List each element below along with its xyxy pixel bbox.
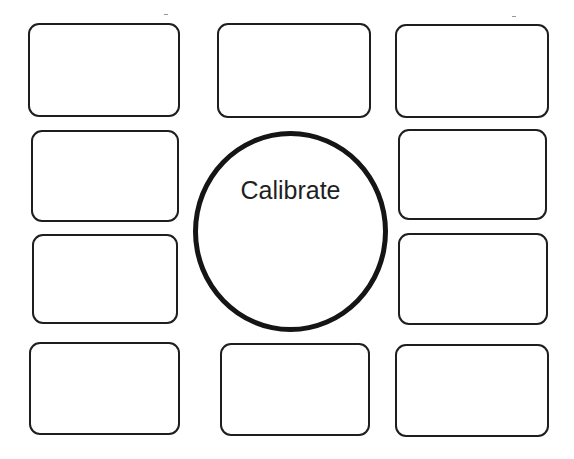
box-top-center bbox=[217, 23, 371, 118]
center-circle: Calibrate bbox=[193, 131, 388, 332]
box-bottom-left bbox=[29, 342, 180, 435]
box-top-right bbox=[395, 24, 549, 118]
scan-speck bbox=[164, 14, 168, 15]
box-middle-lower-left bbox=[32, 234, 178, 324]
box-top-left bbox=[28, 23, 180, 117]
box-bottom-center bbox=[220, 343, 370, 436]
box-middle-upper-left bbox=[31, 130, 179, 222]
box-middle-upper-right bbox=[398, 129, 547, 220]
box-bottom-right bbox=[395, 344, 549, 437]
scan-speck bbox=[512, 16, 516, 17]
circle-label: Calibrate bbox=[198, 176, 383, 205]
box-middle-lower-right bbox=[398, 233, 548, 325]
